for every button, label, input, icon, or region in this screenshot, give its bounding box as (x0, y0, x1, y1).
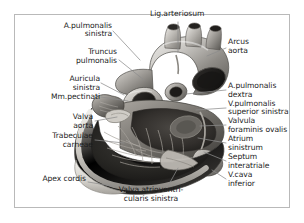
label-valva-av-sinistra-line2: cularis sinistra (108, 195, 194, 204)
label-valva-aorta-line2: aorta (45, 122, 93, 131)
label-arcus-aorta-line2: aorta (228, 47, 248, 56)
label-apex-cordis: Apex cordis (25, 175, 86, 184)
label-v-cava-inferior-line2: inferior (228, 180, 255, 189)
label-a-pulmonalis-sinistra-line2: sinistra (63, 30, 112, 39)
aortic-branch-vessels (165, 23, 222, 50)
label-truncus-pulmonalis-line2: pulmonalis (57, 57, 117, 66)
label-trabeculae-carneae-line2: carneae (20, 141, 93, 150)
lig-arteriosum-shape (176, 55, 178, 74)
label-mm-pectinati: Mm.pectinati (22, 93, 100, 102)
leader-a-pulmonalis-sinistra (113, 31, 140, 60)
anatomy-figure-root: Lig.arteriosum A.pulmonalis sinistra Arc… (0, 0, 304, 223)
